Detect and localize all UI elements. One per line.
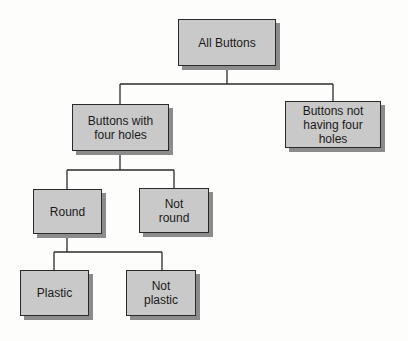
node-label: All Buttons xyxy=(198,36,255,50)
node-label: Round xyxy=(50,205,85,219)
node-label: Not round xyxy=(159,197,190,225)
node-all-buttons: All Buttons xyxy=(178,19,276,66)
node-round: Round xyxy=(33,189,102,234)
node-not-plastic: Not plastic xyxy=(126,270,196,316)
node-plastic: Plastic xyxy=(20,270,89,316)
node-label: Buttons with four holes xyxy=(88,114,153,142)
diagram-canvas: All Buttons Buttons with four holes Butt… xyxy=(0,0,408,341)
node-buttons-with-four-holes: Buttons with four holes xyxy=(72,104,169,151)
node-label: Buttons not having four holes xyxy=(303,104,364,146)
node-not-round: Not round xyxy=(139,188,209,233)
node-buttons-not-having-four-holes: Buttons not having four holes xyxy=(285,101,381,148)
node-label: Plastic xyxy=(37,286,72,300)
node-label: Not plastic xyxy=(144,279,178,307)
